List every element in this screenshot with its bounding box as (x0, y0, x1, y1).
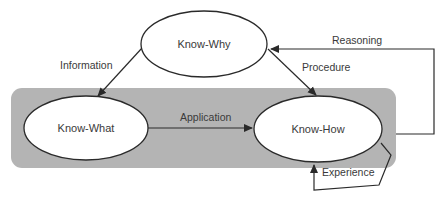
label-reasoning: Reasoning (332, 34, 382, 46)
knowledge-diagram: Know-Why Know-What Know-How Information … (0, 0, 447, 198)
node-know-what: Know-What (24, 96, 148, 160)
node-label: Know-What (58, 122, 115, 134)
label-information: Information (60, 59, 113, 71)
label-experience: Experience (322, 166, 375, 178)
label-procedure: Procedure (302, 61, 351, 73)
node-label: Know-How (291, 123, 344, 135)
label-application: Application (180, 111, 232, 123)
node-know-how: Know-How (254, 96, 382, 162)
node-know-why: Know-Why (141, 11, 267, 77)
node-label: Know-Why (177, 38, 231, 50)
